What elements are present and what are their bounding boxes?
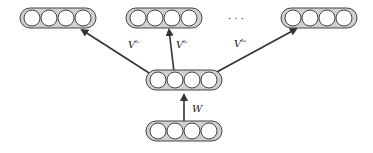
output-layer-2 xyxy=(126,8,202,28)
edge-v1 xyxy=(82,30,160,80)
label-vm: Vtₘ xyxy=(234,37,246,49)
diagram-canvas: · · · Vt₁ Vt₂ Vtₘ W xyxy=(0,0,373,153)
ellipsis: · · · xyxy=(228,13,244,24)
output-layer-1 xyxy=(20,8,96,28)
hidden-layer xyxy=(146,70,222,90)
input-layer xyxy=(146,121,222,141)
label-v1: Vt₁ xyxy=(128,38,139,50)
label-w: W xyxy=(192,103,203,114)
output-layer-m xyxy=(281,8,357,28)
label-v2: Vt₂ xyxy=(176,38,187,50)
